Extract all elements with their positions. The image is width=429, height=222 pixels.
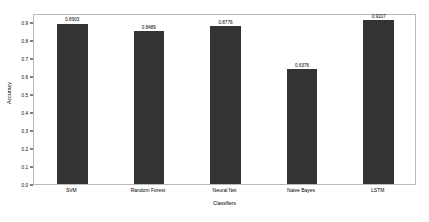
y-axis-tick-label: 0.9: [22, 21, 28, 26]
x-axis-tick-label: Random Forest: [131, 187, 165, 194]
bar-value-label: 0.8776: [218, 20, 232, 25]
x-axis-tick-label: SVM: [66, 187, 77, 194]
bar-value-label: 0.6376: [295, 63, 309, 68]
bar-group: 0.8903: [57, 15, 88, 184]
y-axis-tick-label: 0.7: [22, 57, 28, 62]
y-axis-tick-labels: 0.00.10.20.30.40.50.60.70.80.9: [10, 14, 30, 185]
plot-inner: 0.89030.84890.87760.63760.9107: [34, 15, 415, 184]
x-axis-tick-label: Neural Net: [213, 187, 237, 194]
x-axis-tick-label: LSTM: [371, 187, 384, 194]
bar-group: 0.8489: [134, 15, 165, 184]
bar[interactable]: [363, 20, 394, 184]
y-axis-tick-label: 0.8: [22, 39, 28, 44]
x-axis-tick-label: Naive Bayes: [287, 187, 315, 194]
bar[interactable]: [287, 69, 318, 184]
y-axis-tick-label: 0.1: [22, 165, 28, 170]
bar-group: 0.9107: [363, 15, 394, 184]
bar[interactable]: [210, 26, 241, 184]
plot-area: 0.89030.84890.87760.63760.9107: [33, 14, 416, 185]
y-axis-tick-label: 0.3: [22, 129, 28, 134]
y-axis-tick-label: 0.6: [22, 75, 28, 80]
bar-group: 0.6376: [287, 15, 318, 184]
bar-value-label: 0.8903: [65, 17, 79, 22]
y-axis-tick-label: 0.2: [22, 147, 28, 152]
bar-value-label: 0.8489: [142, 25, 156, 30]
x-axis-title: Classifiers: [33, 200, 416, 206]
bar[interactable]: [134, 31, 165, 184]
bar-group: 0.8776: [210, 15, 241, 184]
bar-value-label: 0.9107: [372, 14, 386, 19]
bar[interactable]: [57, 24, 88, 184]
y-axis-tick-label: 0.5: [22, 93, 28, 98]
y-axis-tick-label: 0.4: [22, 111, 28, 116]
y-axis-tick-label: 0.0: [22, 183, 28, 188]
bar-chart-figure: Accuracy 0.00.10.20.30.40.50.60.70.80.9 …: [0, 0, 429, 222]
